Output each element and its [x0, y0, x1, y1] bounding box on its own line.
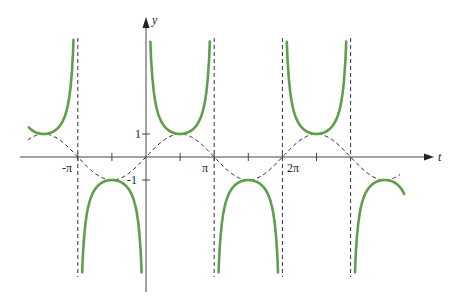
csc-sin-chart: y t -π π 2π 1 -1 [0, 0, 458, 306]
cosecant-branch [82, 180, 141, 272]
tick-label-two-pi: 2π [287, 161, 299, 175]
tick-label-neg-pi: -π [62, 161, 72, 175]
cosecant-branch [287, 42, 346, 134]
cosecant-branch [150, 42, 209, 134]
cosecant-branch [355, 180, 404, 272]
x-axis-arrow-icon [424, 154, 434, 161]
cosecant-branch [219, 180, 278, 272]
y-axis-arrow-icon [143, 17, 150, 28]
tick-label-one: 1 [135, 127, 141, 141]
x-axis-label: t [438, 150, 442, 164]
tick-label-pi: π [202, 161, 208, 175]
y-axis-label: y [151, 13, 158, 27]
tick-label-neg-one: -1 [127, 173, 137, 187]
cosecant-curve [29, 40, 404, 273]
cosecant-branch [29, 40, 74, 134]
